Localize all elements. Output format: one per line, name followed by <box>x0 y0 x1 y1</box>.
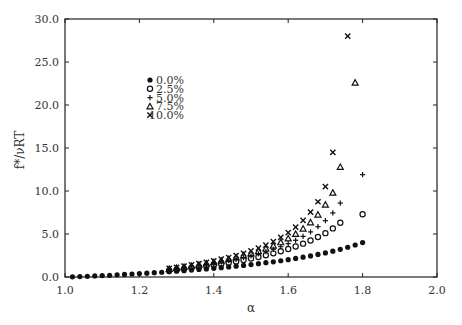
x-axis-label: α <box>247 301 255 315</box>
y-axis-label: f*/νRT <box>13 131 27 170</box>
y-tick-label: 5.0 <box>42 228 60 241</box>
series-00 <box>70 240 365 279</box>
plot-frame <box>65 19 437 277</box>
x-tick-label: 1.2 <box>131 284 149 297</box>
x-tick-label: 1.0 <box>56 284 74 297</box>
y-tick-label: 15.0 <box>35 142 60 155</box>
y-tick-label: 0.0 <box>42 271 60 284</box>
y-tick-label: 20.0 <box>35 99 60 112</box>
y-tick-label: 10.0 <box>35 185 60 198</box>
legend-label: 10.0% <box>149 109 184 122</box>
legend-item: 10.0% <box>147 109 184 122</box>
scatter-chart: 1.01.21.41.61.82.00.05.010.015.020.025.0… <box>0 0 462 325</box>
x-tick-label: 1.6 <box>279 284 297 297</box>
series-75 <box>166 80 358 272</box>
data-points <box>70 34 365 280</box>
series-100 <box>167 34 351 271</box>
x-tick-label: 1.8 <box>354 284 372 297</box>
y-tick-label: 25.0 <box>35 56 60 69</box>
y-tick-label: 30.0 <box>35 13 60 26</box>
legend: 0.0%2.5%5.0%7.5%10.0% <box>147 74 184 122</box>
x-tick-label: 2.0 <box>428 284 446 297</box>
axis-ticks: 1.01.21.41.61.82.00.05.010.015.020.025.0… <box>35 13 446 297</box>
x-tick-label: 1.4 <box>205 284 223 297</box>
